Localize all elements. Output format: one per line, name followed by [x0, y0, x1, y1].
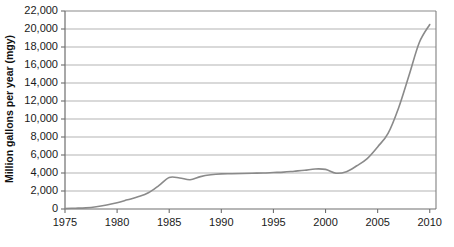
x-tick-label: 2000 [313, 216, 337, 228]
x-tick-label: 2005 [365, 216, 389, 228]
x-tick-label: 1980 [105, 216, 129, 228]
x-tick-label: 1985 [157, 216, 181, 228]
y-tick-label: 2,000 [30, 184, 58, 196]
y-tick-label: 18,000 [24, 40, 58, 52]
x-tick-label: 1990 [209, 216, 233, 228]
y-tick-label: 0 [52, 202, 58, 214]
x-tick-label: 2010 [418, 216, 442, 228]
x-tick-label: 1975 [53, 216, 77, 228]
y-tick-label: 12,000 [24, 94, 58, 106]
y-tick-label: 10,000 [24, 112, 58, 124]
chart-container: 02,0004,0006,0008,00010,00012,00014,0001… [0, 0, 454, 247]
x-tick-label: 1995 [261, 216, 285, 228]
chart-background [0, 0, 454, 247]
y-tick-label: 14,000 [24, 76, 58, 88]
y-tick-label: 16,000 [24, 58, 58, 70]
y-tick-label: 20,000 [24, 22, 58, 34]
y-tick-label: 22,000 [24, 4, 58, 16]
line-chart: 02,0004,0006,0008,00010,00012,00014,0001… [0, 0, 454, 247]
y-tick-label: 8,000 [30, 130, 58, 142]
y-axis-title: Million gallons per year (mgy) [3, 35, 15, 183]
y-tick-label: 6,000 [30, 148, 58, 160]
y-tick-label: 4,000 [30, 166, 58, 178]
